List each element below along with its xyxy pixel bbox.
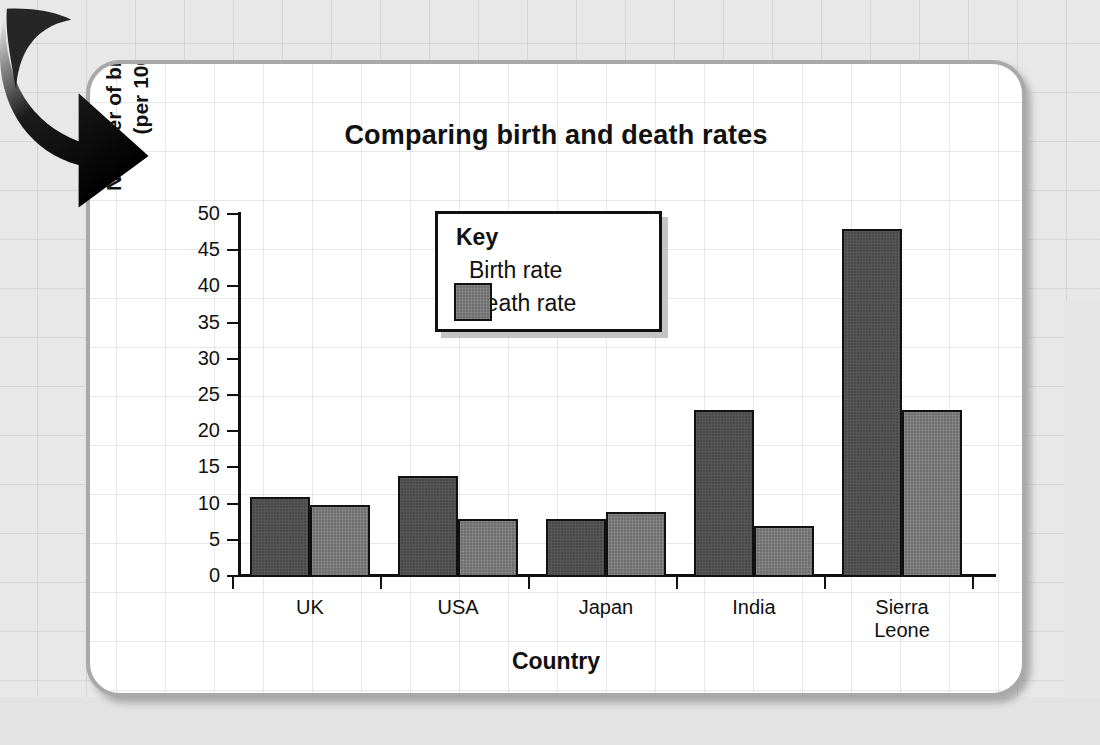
y-tick-label-35: 35 [198,311,220,334]
category-label-line2-4: Leone [828,619,976,642]
bar-death-2 [606,512,666,577]
category-label-line1-0: UK [236,596,384,619]
bar-death-3 [754,526,814,577]
x-tick-edge-0 [232,577,234,589]
y-tick-label-0: 0 [209,564,220,587]
category-label-line1-2: Japan [532,596,680,619]
legend-title: Key [456,224,659,251]
bar-birth-4 [842,229,902,577]
legend-item-death-rate: Death rate [454,290,659,317]
x-tick-3 [676,577,678,589]
bar-death-0 [310,505,370,577]
y-tick-40: 40 [227,285,238,287]
bar-death-4 [902,410,962,577]
bar-birth-1 [398,476,458,577]
y-tick-45: 45 [227,249,238,251]
page-right-band [1064,300,1100,697]
x-tick-edge-1 [972,577,974,589]
y-axis-title-line1: Number of births and deaths [101,60,128,191]
category-label-line1-1: USA [384,596,532,619]
legend: Key Birth rate Death rate [435,211,662,332]
y-tick-label-20: 20 [198,419,220,442]
chart-title: Comparing birth and death rates [90,120,1022,151]
bar-birth-3 [694,410,754,577]
x-axis-title: Country [90,648,1022,675]
y-tick-20: 20 [227,430,238,432]
chart-card: Comparing birth and death rates Number o… [86,60,1026,697]
y-tick-15: 15 [227,466,238,468]
legend-item-birth-rate: Birth rate [454,257,659,284]
y-tick-10: 10 [227,503,238,505]
y-axis-title: Number of births and deaths (per 1000 pe… [96,60,160,248]
category-label-2: Japan [532,596,680,619]
x-tick-2 [528,577,530,589]
y-tick-label-45: 45 [198,238,220,261]
y-tick-30: 30 [227,358,238,360]
category-label-line1-4: Sierra [828,596,976,619]
y-tick-50: 50 [227,213,238,215]
x-tick-1 [380,577,382,589]
y-tick-label-10: 10 [198,492,220,515]
category-label-4: SierraLeone [828,596,976,642]
x-tick-4 [824,577,826,589]
category-label-0: UK [236,596,384,619]
y-axis-title-line2: (per 1000 people) [128,60,155,134]
bar-birth-2 [546,519,606,577]
y-tick-label-15: 15 [198,455,220,478]
category-label-3: India [680,596,828,619]
category-label-line1-3: India [680,596,828,619]
bar-birth-0 [250,497,310,577]
y-tick-25: 25 [227,394,238,396]
y-tick-label-25: 25 [198,383,220,406]
page-bottom-band [0,697,1100,745]
y-tick-label-40: 40 [198,274,220,297]
bar-death-1 [458,519,518,577]
death-rate-swatch [454,283,492,321]
y-tick-label-5: 5 [209,528,220,551]
y-tick-35: 35 [227,322,238,324]
y-tick-label-50: 50 [198,202,220,225]
y-tick-label-30: 30 [198,347,220,370]
legend-label-birth-rate: Birth rate [469,257,562,284]
y-tick-5: 5 [227,539,238,541]
category-label-1: USA [384,596,532,619]
y-axis-line [238,212,241,577]
